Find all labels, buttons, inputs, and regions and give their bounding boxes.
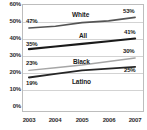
y-tick-label-30: 30% bbox=[1, 52, 21, 59]
x-tick-label-2006: 2006 bbox=[96, 116, 122, 124]
y-tick-label-0: 0% bbox=[1, 103, 21, 110]
y-tick-label-20: 20% bbox=[1, 69, 21, 76]
point-label-latino-2003: 19% bbox=[26, 80, 37, 87]
y-axis: 60% 50% 40% 30% 20% 10% 0% bbox=[0, 0, 21, 112]
y-tick-label-40: 40% bbox=[1, 35, 21, 42]
point-label-black-2007: 30% bbox=[123, 48, 134, 55]
x-tick-label-2007: 2007 bbox=[122, 116, 147, 124]
series-line-white bbox=[29, 17, 135, 28]
point-label-all-2007: 41% bbox=[124, 29, 135, 36]
y-tick-label-60: 60% bbox=[1, 1, 21, 8]
series-line-all bbox=[29, 39, 135, 50]
x-tick-label-2004: 2004 bbox=[42, 116, 68, 124]
y-tick-label-10: 10% bbox=[1, 86, 21, 93]
series-label-latino: Latino bbox=[72, 78, 91, 85]
x-tick-label-2005: 2005 bbox=[69, 116, 95, 124]
point-label-all-2003: 35% bbox=[26, 41, 37, 48]
series-label-black: Black bbox=[73, 58, 90, 65]
line-chart: 60% 50% 40% 30% 20% 10% 0% White All Bla… bbox=[0, 0, 147, 130]
point-label-white-2007: 53% bbox=[123, 8, 134, 15]
point-label-black-2003: 23% bbox=[26, 60, 37, 67]
series-label-all: All bbox=[79, 32, 87, 39]
y-tick-label-50: 50% bbox=[1, 18, 21, 25]
x-axis: 2003 2004 2005 2006 2007 bbox=[22, 116, 144, 128]
point-label-white-2003: 47% bbox=[26, 18, 37, 25]
x-tick-label-2003: 2003 bbox=[16, 116, 42, 124]
plot-area: White All Black Latino 47% 53% 35% 41% 2… bbox=[22, 4, 144, 112]
point-label-latino-2007: 25% bbox=[124, 67, 135, 74]
series-label-white: White bbox=[72, 11, 89, 18]
